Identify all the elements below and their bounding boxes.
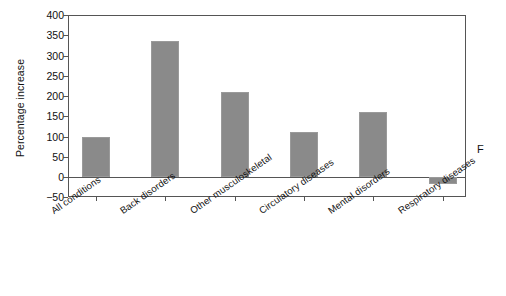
x-tick-mark xyxy=(304,197,305,201)
y-tick-label: 50 xyxy=(30,152,64,162)
x-tick-mark xyxy=(373,197,374,201)
y-tick-label: 200 xyxy=(30,91,64,101)
bar xyxy=(151,41,179,177)
x-tick-mark xyxy=(235,197,236,201)
y-tick-label: 300 xyxy=(30,51,64,61)
bar xyxy=(82,137,110,178)
zero-baseline xyxy=(68,177,466,178)
y-tick-label: 150 xyxy=(30,111,64,121)
x-tick-mark xyxy=(443,197,444,201)
y-tick-label: 100 xyxy=(30,132,64,142)
y-tick-label: 400 xyxy=(30,10,64,20)
x-tick-mark xyxy=(96,197,97,201)
y-tick-label: 350 xyxy=(30,30,64,40)
bar xyxy=(221,92,249,177)
y-tick-label: 250 xyxy=(30,71,64,81)
bar-chart: Percentage increase 40035030025020015010… xyxy=(0,0,506,296)
plot-area xyxy=(68,15,466,197)
y-axis-title: Percentage increase xyxy=(14,18,30,198)
x-tick-mark xyxy=(165,197,166,201)
side-annotation-f: F xyxy=(477,143,484,155)
y-tick-label: 0 xyxy=(30,172,64,182)
